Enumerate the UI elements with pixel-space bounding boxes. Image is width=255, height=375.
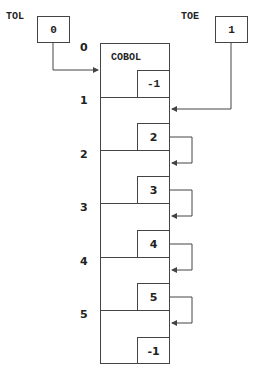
link-arrow-5: [170, 297, 192, 323]
link-arrow-4: [170, 244, 192, 270]
link-arrow-2: [170, 137, 192, 163]
arrows: [0, 0, 255, 375]
tol-arrow: [53, 43, 98, 70]
link-arrow-3: [170, 190, 192, 216]
toe-arrow: [172, 43, 231, 109]
